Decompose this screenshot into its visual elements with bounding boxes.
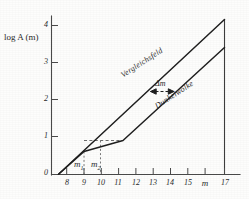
x-tick-label-11: 11 bbox=[111, 179, 125, 187]
delta-m-label: Δm bbox=[155, 80, 165, 88]
x-axis-name: m bbox=[198, 179, 212, 188]
x-tick-label-8: 8 bbox=[60, 179, 74, 187]
y-tick-label-1: 1 bbox=[36, 132, 48, 140]
y-tick-label-3: 3 bbox=[36, 58, 48, 66]
m2-marker-sub: 2 bbox=[98, 165, 101, 171]
y-tick-label-2: 2 bbox=[36, 95, 48, 103]
m2-marker-label: m2 bbox=[91, 160, 101, 171]
y-axis-title: log A (m) bbox=[4, 33, 39, 42]
y-tick-marks bbox=[52, 26, 59, 137]
m1-marker-sub: 1 bbox=[81, 165, 84, 171]
x-tick-label-10: 10 bbox=[94, 179, 108, 187]
axes-group bbox=[52, 16, 241, 175]
x-tick-label-12: 12 bbox=[129, 179, 143, 187]
x-tick-label-17: 17 bbox=[218, 179, 232, 187]
x-tick-label-15: 15 bbox=[181, 179, 195, 187]
x-tick-label-9: 9 bbox=[77, 179, 91, 187]
x-tick-label-14: 14 bbox=[163, 179, 177, 187]
chart-figure: 4 3 2 1 0 log A (m) 8 9 10 11 12 13 14 1… bbox=[0, 0, 249, 199]
x-tick-label-13: 13 bbox=[146, 179, 160, 187]
y-tick-label-0: 0 bbox=[36, 169, 48, 177]
y-tick-label-4: 4 bbox=[36, 21, 48, 29]
m1-marker-label: m1 bbox=[74, 160, 84, 171]
